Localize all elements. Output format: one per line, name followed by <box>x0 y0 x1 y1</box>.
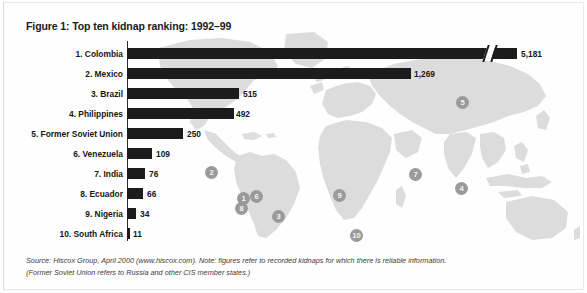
bar-label: 4. Philippines <box>0 108 127 120</box>
bar-row: 4. Philippines 492 <box>0 107 587 127</box>
map-marker-ecuador: 8 <box>235 202 248 215</box>
bar-brazil <box>127 88 239 99</box>
map-marker-venezuela: 6 <box>250 190 263 203</box>
map-marker-nigeria: 9 <box>333 189 346 202</box>
bar-value: 5,181 <box>521 48 542 60</box>
bar-label: 3. Brazil <box>0 88 127 100</box>
figure-container: Figure 1: Top ten kidnap ranking: 1992–9… <box>0 0 587 293</box>
bar-value: 11 <box>133 228 142 240</box>
bar-value: 34 <box>140 208 149 220</box>
map-marker-india: 7 <box>409 168 422 181</box>
bar-value: 492 <box>236 108 250 120</box>
map-marker-former-soviet-union: 5 <box>456 96 469 109</box>
bar-south-africa <box>127 228 130 239</box>
bar-colombia <box>127 48 517 59</box>
bar-label: 9. Nigeria <box>0 208 127 220</box>
bar-label: 5. Former Soviet Union <box>0 128 127 140</box>
bar-label: 1. Colombia <box>0 48 127 60</box>
bar-india <box>127 168 145 179</box>
bar-value: 109 <box>156 148 170 160</box>
bar-value: 76 <box>149 168 158 180</box>
bar-ecuador <box>127 188 143 199</box>
bar-row: 3. Brazil 515 <box>0 87 587 107</box>
bar-value: 66 <box>147 188 156 200</box>
map-marker-mexico: 2 <box>205 166 218 179</box>
bar-nigeria <box>127 208 136 219</box>
bar-label: 10. South Africa <box>0 228 127 240</box>
bar-value: 1,269 <box>414 68 435 80</box>
bar-value: 250 <box>187 128 201 140</box>
bar-label: 6. Venezuela <box>0 148 127 160</box>
bar-row: 2. Mexico 1,269 <box>0 67 587 87</box>
bar-value: 515 <box>243 88 257 100</box>
figure-footnote: Source: Hiscox Group, April 2000 (www.hi… <box>26 255 526 278</box>
figure-title: Figure 1: Top ten kidnap ranking: 1992–9… <box>26 20 231 32</box>
bar-former-soviet-union <box>127 128 183 139</box>
bar-label: 8. Ecuador <box>0 188 127 200</box>
bar-label: 2. Mexico <box>0 68 127 80</box>
bar-row: 7. India 76 <box>0 167 587 187</box>
bar-row: 9. Nigeria 34 <box>0 207 587 227</box>
footnote-line-2: (Former Soviet Union refers to Russia an… <box>26 267 526 279</box>
bar-row: 8. Ecuador 66 <box>0 187 587 207</box>
map-marker-brazil: 3 <box>272 210 285 223</box>
footnote-line-1: Source: Hiscox Group, April 2000 (www.hi… <box>26 255 526 267</box>
bar-mexico <box>127 68 411 79</box>
bar-row: 6. Venezuela 109 <box>0 147 587 167</box>
bar-row: 5. Former Soviet Union 250 <box>0 127 587 147</box>
bar-chart: 1. Colombia 5,181 2. Mexico 1,269 3. Bra… <box>0 41 587 241</box>
map-marker-philippines: 4 <box>455 182 468 195</box>
bar-venezuela <box>127 148 152 159</box>
bar-row: 10. South Africa 11 <box>0 227 587 247</box>
bar-philippines <box>127 108 234 119</box>
bar-label: 7. India <box>0 168 127 180</box>
bar-row: 1. Colombia 5,181 <box>0 47 587 67</box>
map-marker-south-africa: 10 <box>350 229 363 242</box>
